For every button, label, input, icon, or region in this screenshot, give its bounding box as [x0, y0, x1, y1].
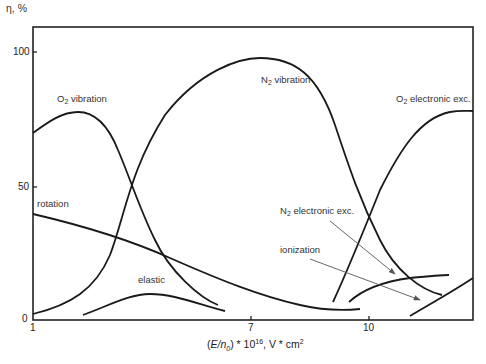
label-text: vibration — [68, 93, 107, 104]
label-text: vibration — [272, 74, 311, 85]
label-o2-vibration: O2 vibration — [57, 93, 107, 105]
arrow-n2-electronic — [330, 221, 395, 274]
xlabel-part: , V * cm — [263, 338, 300, 350]
label-rotation: rotation — [37, 198, 69, 209]
x-tick-label-10: 10 — [363, 322, 374, 333]
xlabel-part: 2 — [300, 338, 304, 345]
label-text: electronic exc. — [291, 205, 354, 216]
label-ionization: ionization — [280, 244, 320, 255]
x-tick-label-1: 1 — [30, 322, 36, 333]
label-n2-electronic: N2 electronic exc. — [280, 205, 354, 217]
chart-canvas — [0, 0, 486, 364]
y-tick-label-0: 0 — [22, 313, 28, 324]
y-tick-label-50: 50 — [18, 181, 29, 192]
y-axis-label: η, % — [6, 2, 27, 14]
xlabel-part: 16 — [255, 338, 263, 345]
xlabel-part: E/n — [211, 338, 227, 350]
xlabel-part: ) * 10 — [230, 338, 255, 350]
y-tick-label-100: 100 — [13, 46, 30, 57]
label-elastic: elastic — [138, 274, 165, 285]
label-n: N — [280, 205, 287, 216]
curve-ionization — [410, 278, 473, 316]
label-o2-electronic: O2 electronic exc. — [396, 93, 471, 105]
label-n: N — [261, 74, 268, 85]
x-axis-label: (E/n0) * 1016, V * cm2 — [207, 338, 304, 352]
curve-rotation — [33, 214, 360, 310]
label-n2-vibration: N2 vibration — [261, 74, 310, 86]
x-tick-label-7: 7 — [248, 322, 254, 333]
label-text: electronic exc. — [407, 93, 470, 104]
